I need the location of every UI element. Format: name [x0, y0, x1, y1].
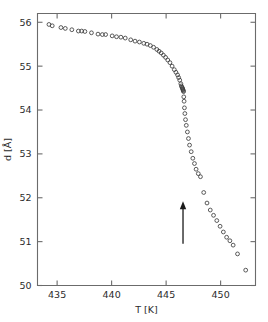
data-point: [188, 143, 192, 147]
transition-temperature-arrow: [180, 201, 186, 244]
data-point: [129, 38, 133, 42]
data-point: [90, 31, 94, 35]
y-axis-title: d [Å]: [2, 138, 13, 161]
y-axis: 50515253545556: [19, 17, 255, 291]
plot-frame: [38, 14, 256, 286]
data-point: [115, 35, 119, 39]
data-point: [185, 130, 189, 134]
data-point: [191, 156, 195, 160]
x-tick-label-445: 445: [157, 289, 175, 300]
y-tick-label-50: 50: [19, 280, 31, 291]
y-tick-label-51: 51: [19, 236, 31, 247]
scatter-plot-svg: 43544044545050515253545556T [K]d [Å]: [0, 0, 268, 322]
data-point: [183, 112, 187, 116]
data-point: [221, 230, 225, 234]
y-tick-label-53: 53: [19, 148, 31, 159]
data-point: [194, 167, 198, 171]
data-point: [215, 219, 219, 223]
data-point: [244, 268, 248, 272]
data-point: [182, 95, 186, 99]
data-point: [218, 224, 222, 228]
data-point: [59, 26, 63, 30]
y-tick-label-56: 56: [19, 17, 31, 28]
data-point: [231, 243, 235, 247]
data-point: [187, 137, 191, 141]
x-tick-label-440: 440: [103, 289, 121, 300]
data-point: [212, 213, 216, 217]
x-axis-title: T [K]: [134, 304, 157, 315]
y-tick-label-54: 54: [19, 104, 31, 115]
data-point: [110, 34, 114, 38]
data-point: [70, 28, 74, 32]
frame-rect: [38, 14, 256, 286]
x-tick-label-435: 435: [48, 289, 66, 300]
data-point: [162, 53, 166, 57]
data-point: [168, 61, 172, 65]
data-point: [119, 35, 123, 39]
data-point: [236, 252, 240, 256]
data-point: [184, 118, 188, 122]
data-point: [199, 175, 203, 179]
data-point: [208, 208, 212, 212]
arrow-head: [180, 201, 186, 209]
data-point: [228, 239, 232, 243]
y-tick-label-55: 55: [19, 61, 31, 72]
data-series-d: [47, 23, 248, 272]
chart-figure: 43544044545050515253545556T [K]d [Å]: [0, 0, 268, 322]
data-point: [202, 191, 206, 195]
data-point: [184, 123, 188, 127]
data-point: [193, 162, 197, 166]
data-point: [96, 32, 100, 36]
data-point: [189, 150, 193, 154]
x-axis: 435440445450: [48, 14, 230, 300]
data-point: [183, 106, 187, 110]
data-point: [63, 27, 67, 31]
y-tick-label-52: 52: [19, 192, 31, 203]
data-point: [225, 235, 229, 239]
data-point: [138, 40, 142, 44]
data-point: [170, 64, 174, 68]
data-point: [182, 99, 186, 103]
x-tick-label-450: 450: [212, 289, 230, 300]
data-point: [205, 201, 209, 205]
data-point: [50, 24, 54, 28]
data-point: [123, 36, 127, 40]
data-point: [133, 39, 137, 43]
